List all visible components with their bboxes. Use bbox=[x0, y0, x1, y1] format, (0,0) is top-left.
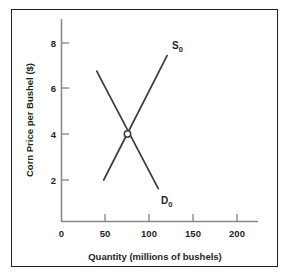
demand-curve-label-letter: D bbox=[161, 195, 168, 206]
x-tick-label-150: 150 bbox=[185, 228, 201, 239]
supply-curve-s0 bbox=[104, 56, 167, 180]
y-axis-title: Corn Price per Bushel ($) bbox=[24, 63, 35, 177]
supply-demand-figure: 8 6 4 2 0 50 100 150 200 Corn Price per … bbox=[0, 0, 288, 280]
equilibrium-point-marker bbox=[124, 131, 130, 137]
x-tick-label-50: 50 bbox=[100, 228, 111, 239]
chart-plot-area: 8 6 4 2 0 50 100 150 200 Corn Price per … bbox=[0, 0, 288, 280]
x-axis-title: Quantity (millions of bushels) bbox=[88, 251, 222, 262]
demand-curve-label: D0 bbox=[161, 195, 172, 209]
demand-curve-d0 bbox=[97, 71, 159, 189]
supply-curve-label: S0 bbox=[172, 40, 183, 54]
y-tick-label-4: 4 bbox=[51, 129, 57, 140]
y-tick-label-8: 8 bbox=[51, 38, 56, 49]
y-tick-label-6: 6 bbox=[51, 83, 56, 94]
supply-curve-label-subscript: 0 bbox=[179, 45, 183, 54]
x-tick-label-100: 100 bbox=[141, 228, 157, 239]
demand-curve-label-subscript: 0 bbox=[168, 200, 172, 209]
x-tick-label-0: 0 bbox=[59, 228, 64, 239]
y-tick-label-2: 2 bbox=[51, 175, 56, 186]
x-tick-label-200: 200 bbox=[229, 228, 245, 239]
